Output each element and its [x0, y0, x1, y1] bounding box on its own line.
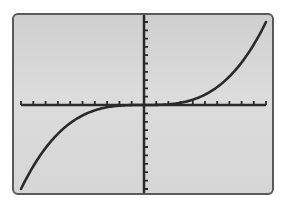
graph-plot — [14, 15, 272, 193]
calculator-screen — [12, 13, 274, 195]
